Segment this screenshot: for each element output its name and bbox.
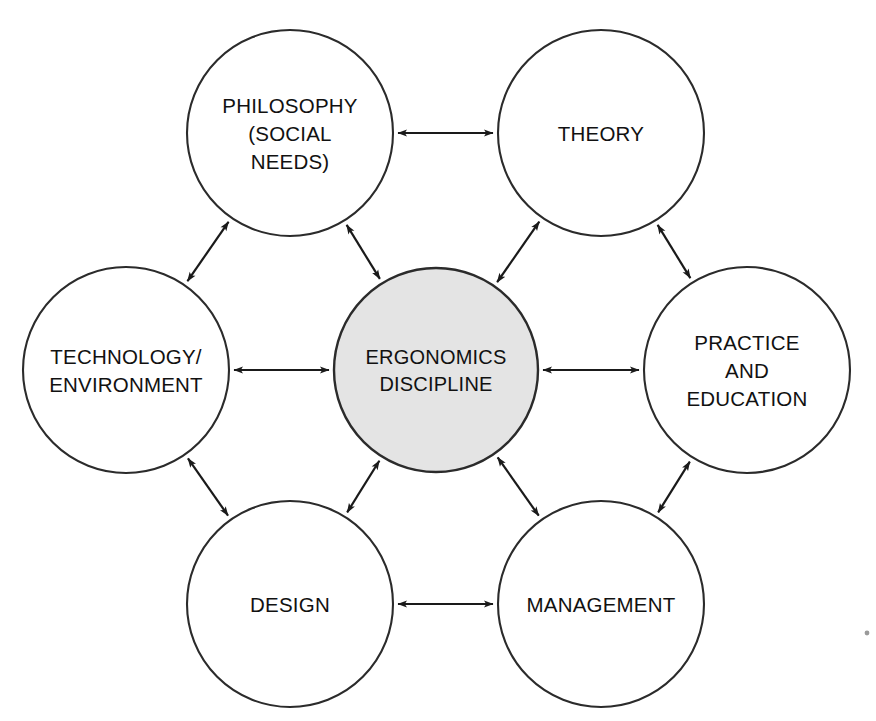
node-technology-environment[interactable]: TECHNOLOGY/ENVIRONMENT <box>23 267 229 473</box>
node-label-theory: THEORY <box>558 122 644 145</box>
nodes-layer: PHILOSOPHY(SOCIALNEEDS)THEORYTECHNOLOGY/… <box>23 30 850 707</box>
node-circle-technology-environment[interactable] <box>23 267 229 473</box>
connector-practice-management <box>658 462 690 513</box>
node-label-line: ERGONOMICS <box>366 346 507 368</box>
node-management[interactable]: MANAGEMENT <box>498 501 704 707</box>
node-practice-and-education[interactable]: PRACTICEANDEDUCATION <box>644 267 850 473</box>
node-label-line: DESIGN <box>250 593 330 616</box>
node-philosophy[interactable]: PHILOSOPHY(SOCIALNEEDS) <box>187 30 393 236</box>
node-label-management: MANAGEMENT <box>527 593 676 616</box>
node-label-line: THEORY <box>558 122 644 145</box>
connector-philosophy-technology <box>187 222 228 281</box>
node-label-line: MANAGEMENT <box>527 593 676 616</box>
connector-design-ergonomics <box>347 461 379 513</box>
connector-philosophy-ergonomics <box>347 225 380 279</box>
connector-management-ergonomics <box>498 457 539 515</box>
node-label-line: PRACTICE <box>694 331 799 354</box>
connector-theory-ergonomics <box>497 222 539 283</box>
node-label-line: TECHNOLOGY/ <box>50 345 202 368</box>
node-label-line: AND <box>725 359 769 382</box>
node-label-line: (SOCIAL <box>248 122 331 145</box>
diagram-canvas: PHILOSOPHY(SOCIALNEEDS)THEORYTECHNOLOGY/… <box>0 0 876 721</box>
ergonomics-diagram: PHILOSOPHY(SOCIALNEEDS)THEORYTECHNOLOGY/… <box>0 0 876 721</box>
node-label-line: DISCIPLINE <box>379 373 492 395</box>
node-label-design: DESIGN <box>250 593 330 616</box>
node-label-line: ENVIRONMENT <box>49 373 203 396</box>
connector-technology-design <box>188 458 228 515</box>
node-label-line: PHILOSOPHY <box>222 94 357 117</box>
node-theory[interactable]: THEORY <box>498 30 704 236</box>
node-label-line: EDUCATION <box>686 387 807 410</box>
node-design[interactable]: DESIGN <box>187 501 393 707</box>
scan-speck-icon <box>865 631 870 636</box>
node-ergonomics-discipline[interactable]: ERGONOMICSDISCIPLINE <box>334 268 538 472</box>
node-circle-ergonomics-discipline[interactable] <box>334 268 538 472</box>
node-label-line: NEEDS) <box>251 150 330 173</box>
connector-theory-practice <box>658 225 691 278</box>
artifacts-layer <box>865 631 870 636</box>
